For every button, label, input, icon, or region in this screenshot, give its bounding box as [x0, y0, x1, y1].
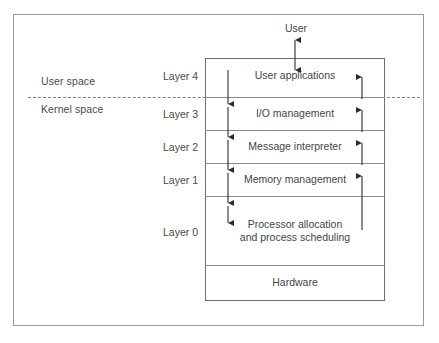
layer-label-1: Layer 1: [163, 174, 207, 186]
layer-label-3: Layer 3: [163, 108, 207, 120]
divider-layer4-layer3: [205, 97, 385, 98]
os-layer-diagram: User User space Kernel space Layer 4 Lay…: [0, 0, 439, 343]
kernel-space-label: Kernel space: [41, 103, 104, 115]
divider-layer3-layer2: [205, 130, 385, 131]
layer-name-memory-management: Memory management: [205, 173, 385, 186]
layer-label-0: Layer 0: [163, 226, 207, 238]
layer-name-processor-allocation: Processor allocation and process schedul…: [205, 218, 385, 244]
layer-name-io-management: I/O management: [205, 107, 385, 120]
layer-name-user-applications: User applications: [205, 69, 385, 82]
layer-label-2: Layer 2: [163, 141, 207, 153]
external-user-label: User: [265, 22, 327, 34]
layer-name-message-interpreter: Message interpreter: [205, 140, 385, 153]
user-space-label: User space: [41, 75, 95, 87]
layer-label-4: Layer 4: [163, 70, 207, 82]
layer-name-hardware: Hardware: [205, 276, 385, 289]
divider-layer1-layer0: [205, 196, 385, 197]
divider-layer0-hardware: [205, 265, 385, 266]
divider-layer2-layer1: [205, 163, 385, 164]
